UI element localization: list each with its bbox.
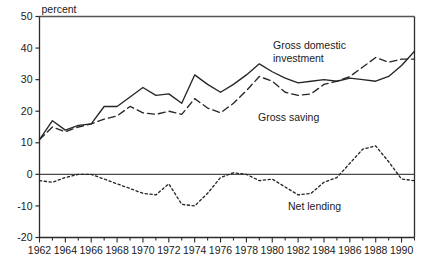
y-tick-label: 20 bbox=[21, 105, 33, 117]
y-tick-label: 30 bbox=[21, 73, 33, 85]
annotation-gross-domestic-investment: Gross domesticinvestment bbox=[273, 39, 346, 64]
y-tick-label: -20 bbox=[17, 231, 32, 243]
savings-investment-line-chart: percent-20-10010203040501962196419661968… bbox=[0, 0, 423, 267]
y-axis-unit-label: percent bbox=[42, 3, 77, 15]
series-line-gross-saving bbox=[40, 58, 415, 140]
x-tick-label: 1978 bbox=[235, 244, 259, 256]
x-tick-label: 1988 bbox=[364, 244, 388, 256]
x-tick-label: 1982 bbox=[286, 244, 310, 256]
chart-figure: percent-20-10010203040501962196419661968… bbox=[0, 0, 423, 267]
y-tick-label: 10 bbox=[21, 136, 33, 148]
x-tick-label: 1990 bbox=[390, 244, 414, 256]
x-tick-label: 1964 bbox=[54, 244, 78, 256]
x-tick-label: 1968 bbox=[105, 244, 129, 256]
annotation-gross-saving: Gross saving bbox=[258, 111, 319, 123]
x-tick-label: 1962 bbox=[28, 244, 52, 256]
x-tick-label: 1974 bbox=[183, 244, 207, 256]
annotation-net-lending: Net lending bbox=[288, 200, 341, 212]
x-tick-label: 1966 bbox=[80, 244, 104, 256]
x-tick-label: 1970 bbox=[131, 244, 155, 256]
y-tick-label: 50 bbox=[21, 10, 33, 22]
series-line-net-lending bbox=[40, 146, 415, 206]
x-tick-label: 1980 bbox=[261, 244, 285, 256]
x-tick-label: 1976 bbox=[209, 244, 233, 256]
x-tick-label: 1972 bbox=[157, 244, 181, 256]
y-tick-label: 40 bbox=[21, 42, 33, 54]
x-tick-label: 1986 bbox=[338, 244, 362, 256]
x-tick-label: 1984 bbox=[312, 244, 336, 256]
series-line-gross-domestic-investment bbox=[40, 51, 415, 139]
y-tick-label: -10 bbox=[17, 200, 32, 212]
y-tick-label: 0 bbox=[27, 168, 33, 180]
